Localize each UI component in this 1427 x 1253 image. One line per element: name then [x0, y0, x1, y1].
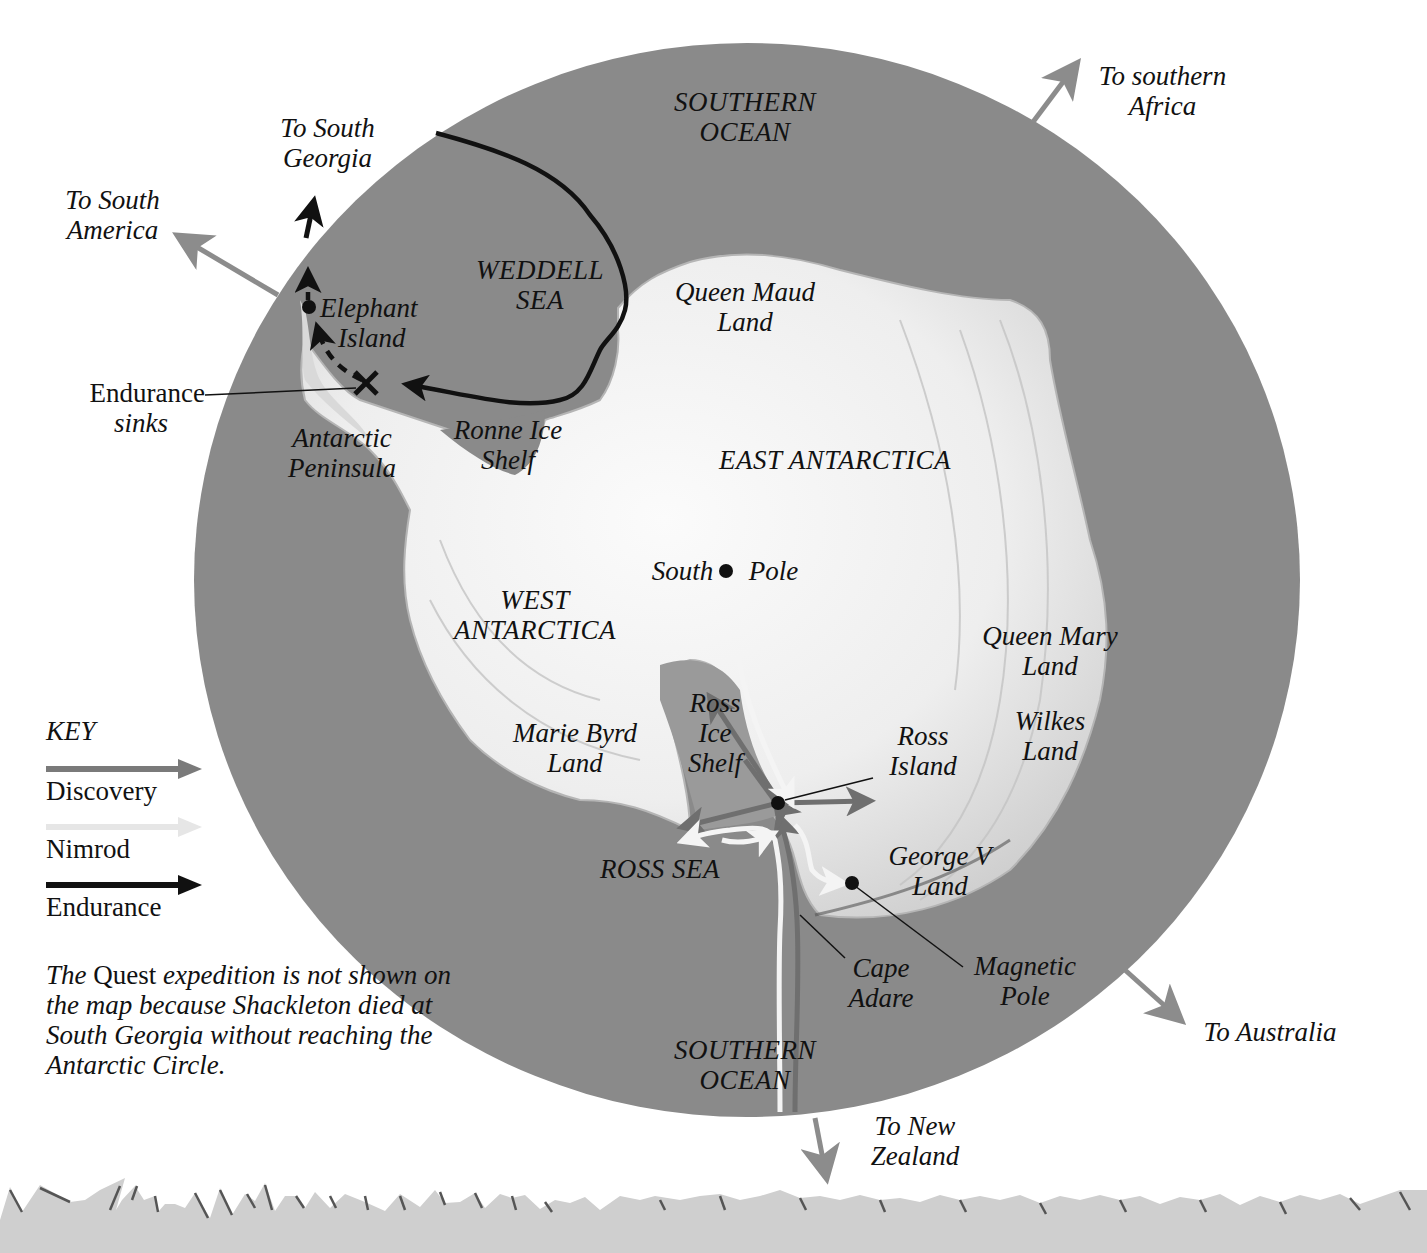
nimrod-arrow-icon [178, 817, 202, 837]
label-antarctic-peninsula: Antarctic Peninsula [262, 423, 422, 483]
label-line: OCEAN [640, 117, 850, 147]
ross-island-dot [771, 796, 785, 810]
label-george-v-land: George V Land [855, 841, 1025, 901]
label-ronne-ice-shelf: Ronne Ice Shelf [418, 415, 598, 475]
label-line: Shelf [418, 445, 598, 475]
label-line: Ronne Ice [418, 415, 598, 445]
label-line: Island [868, 751, 978, 781]
label-line: Ice [672, 718, 758, 748]
nimrod-line-swatch [46, 824, 186, 830]
map-key: KEY Discovery Nimrod Endurance [46, 716, 216, 932]
label-to-southern-africa: To southern Africa [1080, 61, 1245, 121]
label-wilkes-land: Wilkes Land [990, 706, 1110, 766]
label-queen-mary-land: Queen Mary Land [950, 621, 1150, 681]
ground-strip [0, 1178, 1427, 1253]
label-line: America [40, 215, 185, 245]
label-line: Peninsula [262, 453, 422, 483]
label-line: Land [640, 307, 850, 337]
label-endurance: Endurance [60, 378, 205, 408]
label-line: Cape [826, 953, 936, 983]
label-to-south-georgia: To South Georgia [255, 113, 400, 173]
label-line: Elephant [320, 293, 417, 323]
label-line: Queen Maud [640, 277, 850, 307]
label-line: OCEAN [640, 1065, 850, 1095]
arrow-south-georgia [306, 205, 313, 238]
label-south-pole: South Pole [640, 556, 810, 586]
label-line: To New [855, 1111, 975, 1141]
label-line: Shelf [672, 748, 758, 778]
label-east-antarctica: EAST ANTARCTICA [680, 445, 990, 475]
label-line: SEA [440, 285, 640, 315]
label-south: South [652, 556, 714, 586]
label-line: ANTARCTICA [420, 615, 650, 645]
label-line: WEDDELL [440, 255, 640, 285]
label-line: Ross [672, 688, 758, 718]
label-line: To southern [1080, 61, 1245, 91]
label-southern-ocean-north: SOUTHERN OCEAN [640, 87, 850, 147]
label-cape-adare: Cape Adare [826, 953, 936, 1013]
label-line: Queen Mary [950, 621, 1150, 651]
label-magnetic-pole: Magnetic Pole [955, 951, 1095, 1011]
label-marie-byrd-land: Marie Byrd Land [480, 718, 670, 778]
key-label: Endurance [46, 892, 161, 922]
arrow-new-zealand [815, 1118, 825, 1170]
key-item-nimrod: Nimrod [46, 816, 216, 874]
endurance-arrow-icon [178, 875, 202, 895]
label-line: George V [855, 841, 1025, 871]
label-sinks: sinks [60, 408, 205, 438]
key-item-endurance: Endurance [46, 874, 216, 932]
label-to-new-zealand: To New Zealand [855, 1111, 975, 1171]
key-label: Nimrod [46, 834, 130, 864]
label-line: Land [480, 748, 670, 778]
label-line: WEST [420, 585, 650, 615]
label-line: Island [320, 323, 417, 353]
label-line: Zealand [855, 1141, 975, 1171]
note-ship-name: Quest [93, 960, 156, 990]
label-line: Land [855, 871, 1025, 901]
label-to-south-america: To South America [40, 185, 185, 245]
note-text: The [46, 960, 93, 990]
label-west-antarctica: WEST ANTARCTICA [420, 585, 650, 645]
label-line: Marie Byrd [480, 718, 670, 748]
label-line: Adare [826, 983, 936, 1013]
elephant-island-dot [302, 300, 316, 314]
endurance-line-swatch [46, 882, 186, 888]
label-elephant-island: Elephant Island [320, 293, 417, 353]
label-ross-island: Ross Island [868, 721, 978, 781]
label-line: To South [255, 113, 400, 143]
key-label: Discovery [46, 776, 157, 806]
label-endurance-sinks: Endurance sinks [60, 378, 205, 438]
arrow-southern-africa [1033, 70, 1072, 122]
label-line: Land [990, 736, 1110, 766]
arrow-australia [1125, 970, 1175, 1015]
key-item-discovery: Discovery [46, 758, 216, 816]
label-line: Antarctic [262, 423, 422, 453]
label-line: Magnetic [955, 951, 1095, 981]
quest-expedition-note: The Quest expedition is not shown on the… [46, 960, 466, 1080]
label-ross-ice-shelf: Ross Ice Shelf [672, 688, 758, 778]
discovery-arrow-icon [178, 759, 202, 779]
label-southern-ocean-south: SOUTHERN OCEAN [640, 1035, 850, 1095]
label-pole: Pole [749, 556, 798, 586]
label-to-australia: To Australia [1185, 1017, 1355, 1047]
discovery-line-swatch [46, 766, 186, 772]
label-weddell-sea: WEDDELL SEA [440, 255, 640, 315]
arrow-south-america [185, 240, 278, 295]
label-line: Georgia [255, 143, 400, 173]
label-line: Land [950, 651, 1150, 681]
label-line: Africa [1080, 91, 1245, 121]
label-line: Wilkes [990, 706, 1110, 736]
label-line: SOUTHERN [640, 1035, 850, 1065]
label-line: SOUTHERN [640, 87, 850, 117]
key-title: KEY [46, 716, 216, 746]
label-line: To South [40, 185, 185, 215]
label-line: Ross [868, 721, 978, 751]
label-queen-maud-land: Queen Maud Land [640, 277, 850, 337]
label-ross-sea: ROSS SEA [580, 854, 740, 884]
label-line: Pole [955, 981, 1095, 1011]
